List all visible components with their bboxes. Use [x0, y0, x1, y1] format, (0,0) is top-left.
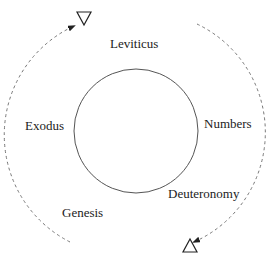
label-genesis: Genesis	[62, 205, 103, 220]
center-circle	[74, 69, 198, 193]
up-triangle-icon	[183, 239, 197, 252]
label-leviticus: Leviticus	[110, 36, 158, 51]
diagram-canvas: Leviticus Exodus Numbers Genesis Deutero…	[0, 0, 266, 265]
down-triangle-icon	[77, 12, 91, 25]
right-dashed-arc	[194, 24, 265, 242]
label-deuteronomy: Deuteronomy	[168, 186, 240, 201]
label-exodus: Exodus	[25, 118, 64, 133]
label-numbers: Numbers	[204, 116, 252, 131]
